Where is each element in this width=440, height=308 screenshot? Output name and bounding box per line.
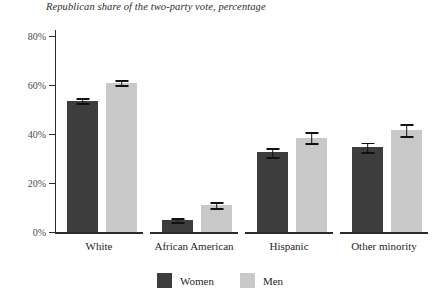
error-bar-cap <box>76 98 89 100</box>
legend-swatch <box>157 273 172 288</box>
error-bar-cap <box>210 208 223 210</box>
error-bar-cap <box>171 222 184 224</box>
legend: WomenMen <box>0 273 440 288</box>
error-bar-cap <box>400 124 413 126</box>
error-bar-cap <box>171 218 184 220</box>
bar <box>296 138 327 232</box>
bar <box>352 147 383 232</box>
error-bar-cap <box>400 136 413 138</box>
error-bar-cap <box>115 85 128 87</box>
y-axis-line <box>55 30 56 233</box>
y-axis-tick-label: 20% <box>4 178 46 189</box>
y-axis-tick <box>49 36 55 37</box>
legend-item: Women <box>157 273 214 288</box>
bar <box>67 101 98 232</box>
error-bar-cap <box>305 132 318 134</box>
x-axis-category-label: Hispanic <box>245 240 333 252</box>
error-bar-cap <box>305 143 318 145</box>
y-axis-tick-label: 40% <box>4 129 46 140</box>
y-axis-tick-label: 0% <box>4 227 46 238</box>
x-axis-category-label: Other minority <box>340 240 428 252</box>
y-axis-tick <box>49 183 55 184</box>
error-bar-cap <box>266 148 279 150</box>
bar <box>106 83 137 232</box>
legend-swatch <box>240 273 255 288</box>
legend-item: Men <box>240 273 283 288</box>
bar <box>257 152 288 232</box>
legend-label: Women <box>180 275 214 287</box>
error-bar-cap <box>76 103 89 105</box>
y-axis-tick <box>49 134 55 135</box>
x-axis-baseline-segment <box>340 232 428 234</box>
x-axis-baseline-segment <box>245 232 333 234</box>
plot-area: 0%20%40%60%80% WhiteAfrican AmericanHisp… <box>0 0 440 308</box>
x-axis-category-label: White <box>55 240 143 252</box>
error-bar-cap <box>115 80 128 82</box>
x-axis-baseline-segment <box>150 232 238 234</box>
error-bar-cap <box>266 157 279 159</box>
x-axis-baseline-segment <box>55 232 143 234</box>
error-bar-cap <box>361 152 374 154</box>
error-bar-cap <box>210 202 223 204</box>
error-bar <box>406 124 408 136</box>
x-axis-category-label: African American <box>150 240 238 252</box>
y-axis-tick-label: 80% <box>4 31 46 42</box>
y-axis-tick <box>49 85 55 86</box>
bar <box>391 130 422 232</box>
legend-label: Men <box>263 275 283 287</box>
y-axis-tick-label: 60% <box>4 80 46 91</box>
error-bar-cap <box>361 143 374 145</box>
